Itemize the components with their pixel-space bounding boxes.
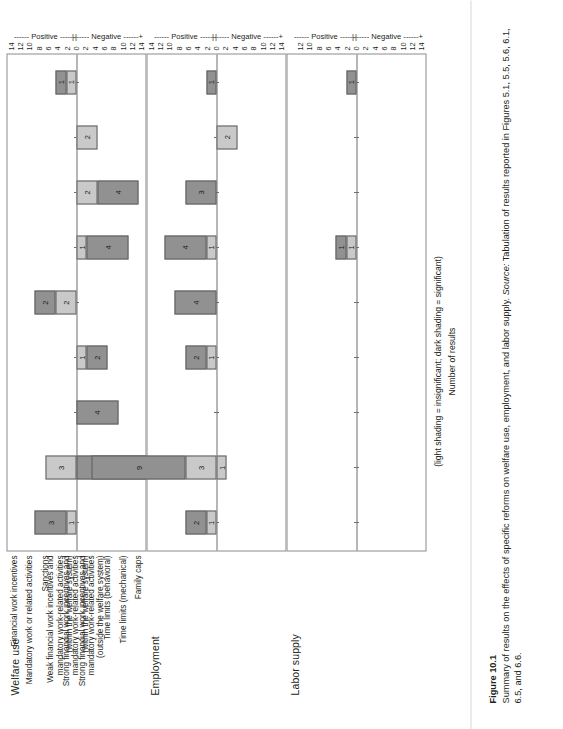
axis-tick-label: 8 [249, 46, 258, 50]
axis-tick [354, 357, 359, 358]
bar-segment-positive-significant: 1 [206, 70, 216, 94]
bar-segment-positive-insignificant: 1 [66, 510, 76, 534]
axis-tick-label: 2 [202, 46, 211, 50]
axis-tick-label: 0 [352, 46, 361, 50]
axis-negative-label: |------ Negative ------+ [71, 32, 142, 41]
axis-tick-label: 12 [296, 42, 305, 50]
axis-tick-label: 0 [212, 46, 221, 50]
bar-segment-positive-insignificant: 2 [55, 290, 76, 314]
axis-positive-label: ------ Positive ------| [14, 32, 77, 41]
plot-inner: 1239112414321 [147, 54, 285, 550]
category-label: Mandatory work or related activities [25, 555, 34, 684]
bar-segment-positive-significant: 1 [335, 235, 345, 259]
axis-tick-label: 14 [6, 42, 15, 50]
axis-tick-label: 2 [62, 46, 71, 50]
category-labels [286, 551, 426, 703]
value-axis: 141210864202468101214|------ Negative --… [146, 19, 286, 53]
axis-tick [354, 522, 359, 523]
axis-tick-label: 10 [118, 42, 127, 50]
bar-segment-positive-insignificant: 3 [185, 455, 216, 479]
axis-tick-label: 10 [305, 42, 314, 50]
axis-tick-label: 8 [389, 46, 398, 50]
bar-segment-positive-significant: 2 [34, 290, 55, 314]
value-axis: 141210864202468101214|------ Negative --… [6, 19, 146, 53]
axis-tick-label: 12 [128, 42, 137, 50]
axis-title: Number of results [446, 19, 456, 703]
figure-sheet: Welfare useFinancial work incentivesMand… [0, 0, 563, 729]
chart-panels: Welfare useFinancial work incentivesMand… [6, 19, 426, 703]
caption-divider [470, 0, 471, 729]
figure-number: Figure 10.1 [486, 13, 498, 703]
axis-tick-label: 12 [268, 42, 277, 50]
axis-tick-label: 2 [81, 46, 90, 50]
axis-tick-label: 6 [324, 46, 333, 50]
axis-tick-label: 4 [370, 46, 379, 50]
axis-tick-label: 10 [25, 42, 34, 50]
axis-tick-label: 8 [109, 46, 118, 50]
category-label: Strong financial work incentives and man… [77, 555, 105, 686]
axis-tick-label: 6 [380, 46, 389, 50]
bar-segment-positive-insignificant: 1 [206, 510, 216, 534]
bar-segment-negative-insignificant: 2 [76, 180, 97, 204]
axis-tick-label: 8 [174, 46, 183, 50]
bar-segment-negative-insignificant: 2 [216, 125, 237, 149]
axis-tick-label: 6 [44, 46, 53, 50]
axis-positive-label: ------ Positive ------| [154, 32, 217, 41]
category-label: Time limits (mechanical) [118, 555, 127, 643]
axis-tick-label: 14 [277, 42, 286, 50]
axis-negative-label: |------ Negative ------+ [211, 32, 282, 41]
category-label: Time limits (behavioral) [102, 555, 111, 639]
bar-segment-positive-significant: 1 [346, 70, 356, 94]
axis-tick-label: 0 [72, 46, 81, 50]
bar-segment-positive-significant: 2 [185, 345, 206, 369]
axis-tick-label: 12 [408, 42, 417, 50]
caption-text: Summary of results on the effects of spe… [500, 297, 510, 703]
plot-inner: 111 [287, 54, 425, 550]
axis-tick-label: 4 [193, 46, 202, 50]
axis-tick-label: 12 [16, 42, 25, 50]
figure-caption: Figure 10.1 Summary of results on the ef… [486, 13, 523, 703]
bar-segment-positive-insignificant: 1 [66, 70, 76, 94]
bar-segment-negative-significant: 4 [86, 235, 128, 259]
axis-tick-label: 4 [90, 46, 99, 50]
bar-segment-negative-insignificant: 1 [76, 345, 86, 369]
axis-tick [354, 136, 359, 137]
axis-tick [214, 412, 219, 413]
bar-segment-positive-significant: 4 [164, 235, 206, 259]
axis-tick-label: 10 [165, 42, 174, 50]
bar-segment-negative-insignificant: 1 [76, 235, 86, 259]
bar-segment-negative-insignificant: 2 [76, 125, 97, 149]
axis-tick-label: 6 [184, 46, 193, 50]
axis-tick-label: 8 [34, 46, 43, 50]
figure-page: Welfare useFinancial work incentivesMand… [0, 0, 563, 729]
chart-panel-labor-supply: Labor supply1111412108642024681012|-----… [286, 19, 426, 703]
axis-tick-label: 4 [53, 46, 62, 50]
axis-tick-label: 8 [314, 46, 323, 50]
bar-segment-negative-significant: 4 [97, 180, 139, 204]
bar-segment-positive-significant: 9 [91, 455, 185, 479]
bar-segment-positive-insignificant: 3 [45, 455, 76, 479]
bar-segment-positive-significant: 3 [185, 180, 216, 204]
shading-legend: (light shading = insignificant; dark sha… [432, 19, 442, 703]
axis-positive-label: ------ Positive ------| [294, 32, 357, 41]
category-label: Family caps [134, 555, 143, 599]
bar-segment-positive-significant: 4 [174, 290, 216, 314]
axis-tick-label: 2 [221, 46, 230, 50]
category-label: Financial work incentives [9, 555, 18, 646]
chart-panel-employment: Employment123911241432114121086420246810… [146, 19, 286, 703]
source-label: Source: [500, 263, 510, 295]
category-labels: Financial work incentivesMandatory work … [6, 551, 146, 703]
axis-tick-label: 2 [361, 46, 370, 50]
axis-tick [354, 412, 359, 413]
bar-segment-positive-significant: 3 [34, 510, 65, 534]
bar-segment-negative-insignificant: 1 [216, 455, 226, 479]
value-axis: 1412108642024681012|------ Negative ----… [286, 19, 426, 53]
bar-segment-positive-significant: 1 [55, 70, 65, 94]
bar-segment-negative-significant: 2 [86, 345, 107, 369]
axis-tick-label: 10 [258, 42, 267, 50]
bar-segment-negative-significant: 4 [76, 400, 118, 424]
bar-segment-positive-insignificant: 1 [206, 345, 216, 369]
axis-tick-label: 12 [156, 42, 165, 50]
plot-area: 111 [286, 53, 426, 551]
axis-tick-label: 2 [342, 46, 351, 50]
